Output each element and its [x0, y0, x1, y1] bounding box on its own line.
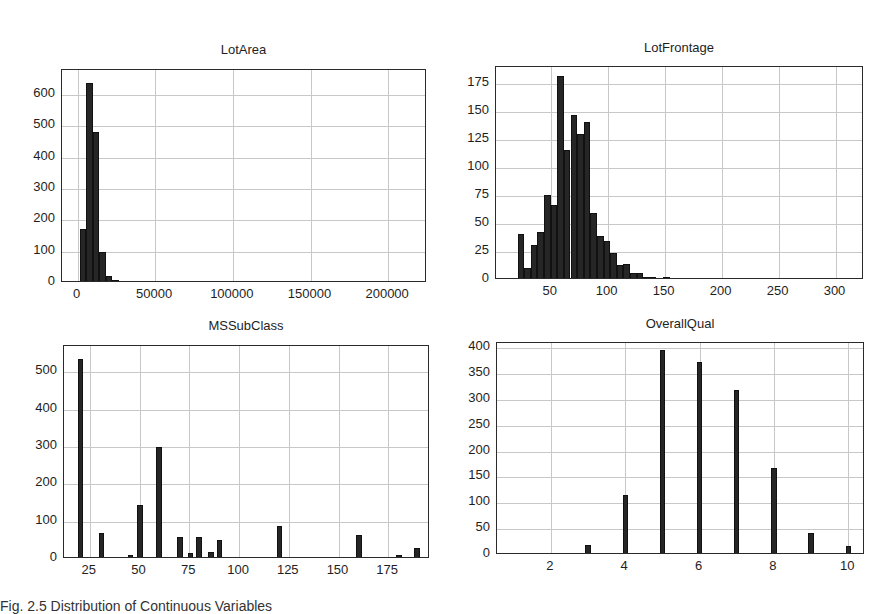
x-tick-label: 8	[738, 559, 808, 573]
gridline-vertical	[189, 346, 190, 557]
histogram-bar	[112, 280, 119, 282]
histogram-bar	[188, 553, 194, 558]
gridline-horizontal	[64, 410, 428, 411]
gridline-vertical	[239, 346, 240, 557]
plot-area	[495, 66, 863, 279]
gridline-horizontal	[64, 484, 428, 485]
y-tick-label: 150	[449, 103, 489, 117]
x-tick-label: 0	[42, 287, 112, 301]
plot-area	[61, 69, 426, 282]
histogram-bar	[630, 273, 637, 279]
histogram-bar	[771, 468, 776, 554]
histogram-bar	[656, 278, 663, 279]
y-tick-label: 500	[17, 363, 57, 377]
histogram-bar	[841, 278, 850, 279]
gridline-horizontal	[64, 372, 428, 373]
y-tick-label: 0	[17, 550, 57, 564]
gridline-vertical	[289, 346, 290, 557]
histogram-bar	[660, 350, 665, 554]
gridline-horizontal	[497, 374, 863, 375]
histogram-bar	[663, 277, 670, 279]
y-tick-label: 400	[17, 401, 57, 415]
y-tick-label: 50	[450, 520, 490, 534]
gridline-vertical	[311, 70, 312, 281]
histogram-bar	[106, 276, 113, 282]
gridline-vertical	[779, 67, 780, 278]
histogram-bar	[78, 359, 84, 558]
histogram-bar	[356, 535, 362, 558]
gridline-horizontal	[62, 252, 425, 253]
gridline-horizontal	[497, 426, 863, 427]
histogram-bar	[99, 533, 105, 558]
histogram-bar	[564, 150, 571, 279]
y-tick-label: 400	[450, 339, 490, 353]
gridline-horizontal	[497, 503, 863, 504]
gridline-horizontal	[62, 220, 425, 221]
gridline-horizontal	[497, 400, 863, 401]
histogram-bar	[396, 555, 402, 558]
histogram-bar	[697, 362, 702, 554]
histogram-bar	[531, 245, 538, 279]
gridline-vertical	[722, 67, 723, 278]
histogram-bar	[537, 232, 544, 279]
y-tick-label: 300	[17, 438, 57, 452]
gridline-vertical	[90, 346, 91, 557]
histogram-bar	[118, 558, 124, 559]
histogram-bar	[518, 234, 525, 279]
gridline-horizontal	[64, 522, 428, 523]
y-tick-label: 200	[15, 211, 55, 225]
histogram-bar	[128, 555, 134, 558]
chart-title: OverallQual	[496, 316, 864, 331]
gridline-vertical	[233, 70, 234, 281]
y-tick-label: 100	[449, 159, 489, 173]
figure-caption: Fig. 2.5 Distribution of Continuous Vari…	[0, 598, 272, 614]
gridline-horizontal	[497, 452, 863, 453]
y-tick-label: 300	[450, 391, 490, 405]
y-tick-label: 0	[15, 274, 55, 288]
gridline-horizontal	[497, 477, 863, 478]
x-tick-label: 50000	[119, 287, 189, 301]
y-tick-label: 200	[17, 475, 57, 489]
y-tick-label: 400	[15, 149, 55, 163]
gridline-vertical	[155, 70, 156, 281]
histogram-bar	[99, 252, 106, 282]
y-tick-label: 600	[15, 86, 55, 100]
chart-title: LotArea	[61, 42, 426, 57]
gridline-horizontal	[497, 348, 863, 349]
y-tick-label: 0	[449, 271, 489, 285]
histogram-bar	[414, 548, 420, 558]
histogram-bar	[610, 253, 617, 279]
x-tick-label: 200000	[352, 287, 422, 301]
histogram-bar	[597, 236, 604, 279]
gridline-horizontal	[497, 529, 863, 530]
x-tick-label: 175	[352, 563, 422, 577]
y-tick-label: 500	[15, 117, 55, 131]
y-tick-label: 150	[450, 468, 490, 482]
gridline-horizontal	[64, 447, 428, 448]
histogram-bar	[544, 195, 551, 279]
gridline-vertical	[339, 346, 340, 557]
histogram-bar	[156, 447, 162, 558]
y-tick-label: 0	[450, 546, 490, 560]
plot-area	[63, 345, 429, 558]
histogram-bar	[577, 134, 584, 279]
histogram-bar	[584, 122, 591, 279]
histogram-bar	[643, 277, 650, 279]
chart-title: LotFrontage	[495, 40, 863, 55]
histogram-bar	[637, 273, 644, 279]
plot-area	[496, 342, 864, 554]
histogram-bar	[137, 505, 143, 558]
y-tick-label: 350	[450, 365, 490, 379]
x-tick-label: 150000	[275, 287, 345, 301]
gridline-vertical	[388, 70, 389, 281]
gridline-vertical	[848, 343, 849, 553]
y-tick-label: 100	[450, 494, 490, 508]
histogram-bar	[524, 268, 531, 279]
y-tick-label: 200	[450, 443, 490, 457]
histogram-bar	[548, 553, 553, 554]
histogram-bar	[86, 83, 93, 282]
y-tick-label: 175	[449, 75, 489, 89]
histogram-bar	[734, 390, 739, 554]
histogram-bar	[623, 495, 628, 554]
histogram-bar	[604, 241, 611, 279]
